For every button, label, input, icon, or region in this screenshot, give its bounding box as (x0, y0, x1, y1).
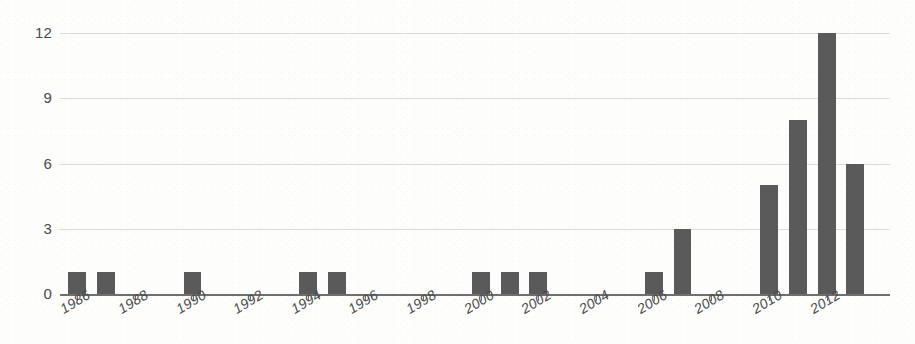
y-tick-label: 3 (6, 220, 52, 237)
gridline (60, 33, 890, 34)
bar (818, 33, 836, 294)
y-tick-label: 9 (6, 89, 52, 106)
y-tick-label: 12 (6, 24, 52, 41)
gridline (60, 164, 890, 165)
plot-area (60, 33, 890, 294)
bar (674, 229, 692, 294)
bar (328, 272, 346, 294)
bar (760, 185, 778, 294)
bar (789, 120, 807, 294)
y-tick-label: 6 (6, 155, 52, 172)
bar-chart: 036912 198619881990199219941996199820002… (0, 0, 915, 344)
bar (846, 164, 864, 295)
bar (501, 272, 519, 294)
gridline (60, 98, 890, 99)
y-tick-label: 0 (6, 285, 52, 302)
bar (97, 272, 115, 294)
